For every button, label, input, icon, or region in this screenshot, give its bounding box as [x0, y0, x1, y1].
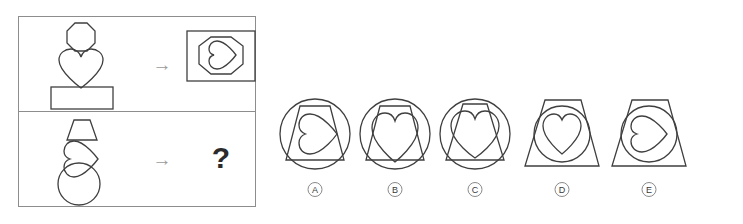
circle-shape: [58, 163, 100, 205]
option-a[interactable]: A: [272, 88, 358, 206]
heart-shape: [543, 114, 581, 154]
heart-shape: [372, 113, 418, 162]
option-d[interactable]: D: [519, 88, 605, 206]
heart-rotated-shape: [64, 141, 98, 177]
question-mark: ?: [212, 143, 230, 173]
trapezoid-shape: [612, 100, 686, 166]
option-d-art: [519, 88, 605, 180]
trapezoid-shape: [67, 120, 97, 140]
trapezoid-shape: [525, 100, 599, 166]
heart-shape: [59, 49, 103, 88]
circle-shape: [360, 99, 430, 169]
option-e-label: E: [642, 182, 657, 197]
heart-shape: [299, 114, 337, 154]
option-b-label: B: [388, 182, 403, 197]
arrow-right-icon: →: [153, 55, 172, 74]
arrow-right-icon: →: [153, 150, 172, 169]
circle-shape: [280, 99, 350, 169]
trapezoid-shape: [286, 106, 344, 160]
heart-shape: [631, 116, 667, 152]
option-b-art: [352, 88, 438, 180]
stimulus-panel: →: [18, 16, 256, 207]
option-c-art: [432, 88, 518, 180]
example-result-cell: [185, 17, 257, 111]
trapezoid-shape: [366, 106, 424, 160]
option-c-label: C: [468, 182, 483, 197]
example-source-shapes: [29, 17, 147, 112]
question-source-stack: [29, 112, 147, 206]
rectangle-shape: [51, 87, 113, 109]
octagon-shape: [67, 23, 95, 51]
option-d-label: D: [555, 182, 570, 197]
option-e[interactable]: E: [606, 88, 692, 206]
question-arrow-cell: →: [137, 112, 187, 206]
option-c[interactable]: C: [432, 88, 518, 206]
option-e-art: [606, 88, 692, 180]
option-b[interactable]: B: [352, 88, 438, 206]
question-result-cell: ?: [185, 112, 257, 206]
option-a-label: A: [308, 182, 323, 197]
example-arrow-cell: →: [137, 17, 187, 111]
result-heart-shape: [209, 41, 236, 69]
trapezoid-shape: [446, 104, 504, 160]
circle-shape: [621, 106, 677, 162]
question-row: → ?: [19, 112, 255, 206]
example-result-shapes: [185, 17, 257, 112]
answer-options: A B C: [272, 88, 738, 206]
option-a-art: [272, 88, 358, 180]
example-source-stack: [29, 17, 147, 111]
example-row: →: [19, 17, 255, 112]
question-source-shapes: [29, 112, 147, 206]
